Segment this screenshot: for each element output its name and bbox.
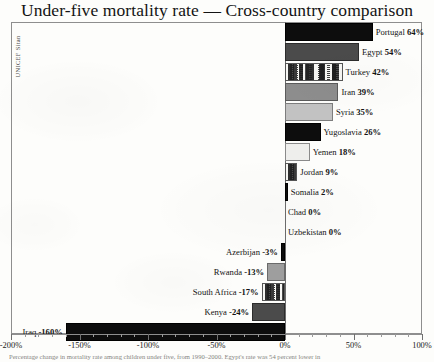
bar-country-name: Yemen [313,147,339,157]
bar-country-name: Uzbekistan [288,227,329,237]
bar-label-south-africa: South Africa -17% [193,282,259,302]
bar-row: Kenya -24% [11,302,422,322]
x-tick-minor [326,334,327,337]
bar-value: 35% [356,107,373,117]
bar-value: 0% [329,227,342,237]
x-tick-label: 0% [279,341,290,350]
bar-turkey[interactable] [285,63,343,81]
x-tick-major [354,334,355,340]
x-tick-minor [312,334,313,337]
bar-row: Azerbijan -3% [11,242,422,262]
x-tick-minor [258,334,259,337]
page-title: Under-five mortality rate — Cross-countr… [0,0,434,20]
bar-label-kenya: Kenya -24% [204,302,249,322]
x-tick-minor [175,334,176,337]
bar-value: 42% [372,67,389,77]
x-tick-minor [93,334,94,337]
x-tick-label: -100% [137,341,159,350]
bar-label-somalia: Somalia 2% [291,182,334,202]
bar-jordan[interactable] [285,163,297,181]
bar-south-africa[interactable] [262,283,285,301]
bar-iran[interactable] [285,83,338,101]
x-tick-minor [408,334,409,337]
bar-yemen[interactable] [285,143,310,161]
bar-row: Yugoslavia 26% [11,122,422,142]
x-tick-minor [203,334,204,337]
x-tick-minor [107,334,108,337]
bar-label-rwanda: Rwanda -13% [214,262,264,282]
bar-row: Jordan 9% [11,162,422,182]
bar-country-name: Yugoslavia [324,127,364,137]
bar-row: Syria 35% [11,102,422,122]
x-tick-minor [299,334,300,337]
x-tick-label: 100% [412,341,432,350]
x-tick-major [80,334,81,340]
chart-page: Under-five mortality rate — Cross-countr… [0,0,434,362]
bar-row: Yemen 18% [11,142,422,162]
x-tick-label: -200% [0,341,22,350]
x-tick-minor [340,334,341,337]
bar-value: -24% [229,307,249,317]
x-tick-minor [367,334,368,337]
bar-country-name: South Africa [193,287,239,297]
bar-value: -3% [262,247,278,257]
x-tick-minor [189,334,190,337]
bar-label-portugal: Portugal 64% [376,22,424,42]
bar-label-syria: Syria 35% [336,102,373,122]
bar-label-iran: Iran 39% [341,82,374,102]
x-tick-minor [66,334,67,337]
bar-country-name: Azerbijan [226,247,262,257]
bar-label-jordan: Jordan 9% [300,162,338,182]
x-tick-minor [230,334,231,337]
x-tick-major [148,334,149,340]
x-tick-minor [52,334,53,337]
x-tick-label: 50% [346,341,361,350]
bar-label-chad: Chad 0% [288,202,321,222]
bar-country-name: Somalia [291,187,321,197]
x-tick-minor [381,334,382,337]
chart-caption: Percentage change in mortality rate amon… [9,353,430,361]
bar-portugal[interactable] [285,23,373,41]
bar-egypt[interactable] [285,43,359,61]
x-tick-minor [244,334,245,337]
x-tick-label: -150% [68,341,90,350]
x-tick-minor [121,334,122,337]
bar-country-name: Egypt [362,47,385,57]
plot-area: Portugal 64%Egypt 54%Turkey 42%Iran 39%S… [11,22,422,334]
bar-row: Uzbekistan 0% [11,222,422,242]
bar-rwanda[interactable] [267,263,285,281]
x-tick-major [285,334,286,340]
x-tick-minor [38,334,39,337]
bar-value: -13% [244,267,264,277]
x-tick-minor [134,334,135,337]
bar-country-name: Turkey [346,67,373,77]
x-tick-minor [395,334,396,337]
bar-value: 9% [325,167,338,177]
bar-country-name: Portugal [376,27,407,37]
x-tick-minor [271,334,272,337]
x-tick-minor [25,334,26,337]
bar-value: 64% [407,27,424,37]
bar-somalia[interactable] [285,183,288,201]
bar-label-uzbekistan: Uzbekistan 0% [288,222,342,242]
bar-row: Portugal 64% [11,22,422,42]
bar-row: Turkey 42% [11,62,422,82]
bar-value: -17% [239,287,259,297]
x-tick-label: -50% [207,341,225,350]
bar-country-name: Jordan [300,167,325,177]
bar-kenya[interactable] [252,303,285,321]
bar-value: 2% [321,187,334,197]
bar-azerbijan[interactable] [281,243,285,261]
bar-syria[interactable] [285,103,333,121]
bar-value: 18% [339,147,356,157]
bar-value: 54% [385,47,402,57]
bar-row: Egypt 54% [11,42,422,62]
bar-row: Rwanda -13% [11,262,422,282]
bar-country-name: Kenya [204,307,229,317]
bar-yugoslavia[interactable] [285,123,321,141]
bar-label-turkey: Turkey 42% [346,62,390,82]
x-tick-major [217,334,218,340]
bar-value: 0% [308,207,321,217]
x-tick-major [422,334,423,340]
bar-row: Chad 0% [11,202,422,222]
